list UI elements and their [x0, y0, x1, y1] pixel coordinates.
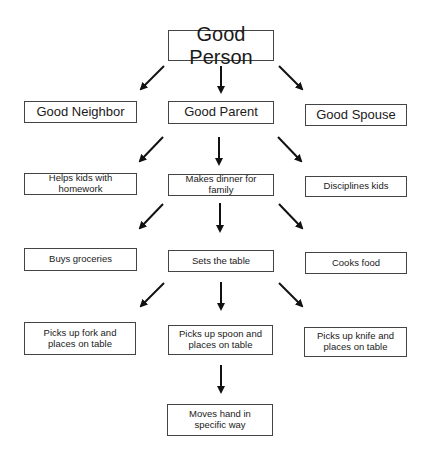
node-picks-knife: Picks up knife and places on table	[304, 327, 407, 357]
node-good-spouse: Good Spouse	[305, 104, 407, 126]
node-picks-spoon: Picks up spoon and places on table	[168, 325, 273, 355]
arrow-parent-homework	[140, 137, 163, 161]
node-makes-dinner: Makes dinner for family	[168, 174, 274, 196]
node-sets-table: Sets the table	[168, 250, 274, 272]
arrow-parent-disciplines	[278, 137, 301, 161]
arrow-dinner-cooks	[279, 204, 302, 228]
node-moves-hand: Moves hand in specific way	[167, 404, 273, 436]
node-good-person: Good Person	[168, 30, 274, 61]
arrow-table-knife	[279, 283, 302, 306]
arrow-person-neighbor	[141, 66, 164, 89]
arrow-person-spouse	[279, 66, 302, 89]
arrow-dinner-groceries	[140, 204, 163, 228]
node-picks-fork: Picks up fork and places on table	[24, 322, 136, 355]
node-disciplines-kids: Disciplines kids	[305, 176, 407, 197]
arrows-layer	[0, 0, 429, 458]
node-buys-groceries: Buys groceries	[24, 248, 137, 271]
arrow-table-fork	[141, 283, 164, 306]
node-good-neighbor: Good Neighbor	[24, 101, 137, 123]
node-good-parent: Good Parent	[168, 101, 274, 124]
node-cooks-food: Cooks food	[305, 252, 407, 274]
node-helps-homework: Helps kids with homework	[24, 173, 137, 195]
